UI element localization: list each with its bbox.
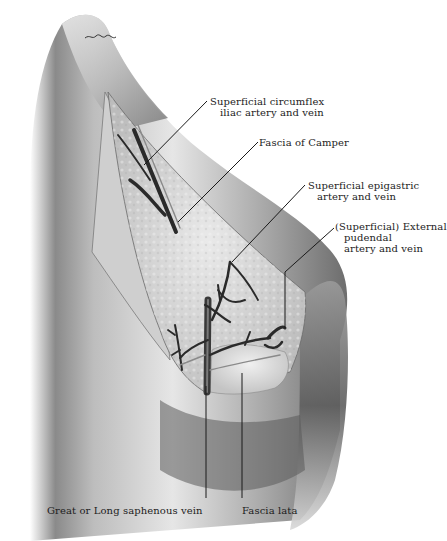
label-fascia-lata: Fascia lata xyxy=(242,505,298,516)
fascia-lata-region xyxy=(210,344,288,394)
label-great-saphenous-vein: Great or Long saphenous vein xyxy=(47,505,203,516)
label-fascia-of-camper: Fascia of Camper xyxy=(259,137,349,148)
label-superficial-epigastric: Superficial epigastric artery and vein xyxy=(308,180,419,202)
label-superficial-circumflex-iliac: Superficial circumflex iliac artery and … xyxy=(210,96,324,118)
label-external-pudendal: (Superficial) External pudendal artery a… xyxy=(335,221,447,254)
